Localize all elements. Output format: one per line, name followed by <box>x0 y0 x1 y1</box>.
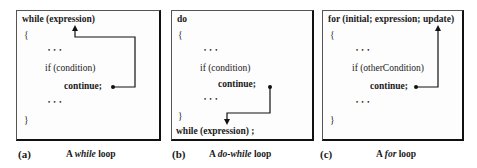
panel-for-loop <box>322 10 464 141</box>
close-brace: } <box>178 111 183 121</box>
caption-do-while: (b) A do-while loop <box>172 148 185 160</box>
if-condition: if (condition) <box>45 63 95 73</box>
ellipsis-top: • • • <box>356 47 370 53</box>
continue-statement: continue; <box>218 79 256 89</box>
close-brace: } <box>24 115 29 125</box>
caption-label: (a) <box>18 148 31 160</box>
ellipsis-bottom: • • • <box>204 96 218 102</box>
close-brace: } <box>330 115 335 125</box>
if-condition: if (otherCondition) <box>352 63 424 73</box>
caption-text: A for loop <box>376 149 416 159</box>
ellipsis-bottom: • • • <box>356 99 370 105</box>
caption-for: (c) A for loop <box>320 148 332 160</box>
panel-while-loop <box>16 10 161 141</box>
do-header: do <box>177 14 187 24</box>
open-brace: { <box>178 30 183 40</box>
open-brace: { <box>24 30 29 40</box>
caption-text: A while loop <box>66 149 116 159</box>
continue-statement: continue; <box>64 81 102 91</box>
caption-while: (a) A while loop <box>18 148 31 160</box>
for-header: for (initial; expression; update) <box>328 14 454 24</box>
continue-statement: continue; <box>370 81 408 91</box>
ellipsis-top: • • • <box>48 47 62 53</box>
open-brace: { <box>330 30 335 40</box>
caption-label: (c) <box>320 148 332 160</box>
if-condition: if (condition) <box>200 63 250 73</box>
caption-text: A do-while loop <box>209 149 271 159</box>
ellipsis-top: • • • <box>204 47 218 53</box>
while-footer: while (expression) ; <box>176 126 254 136</box>
while-header: while (expression) <box>22 14 95 24</box>
panel-do-while-loop <box>171 10 314 141</box>
ellipsis-bottom: • • • <box>48 99 62 105</box>
caption-label: (b) <box>172 148 185 160</box>
